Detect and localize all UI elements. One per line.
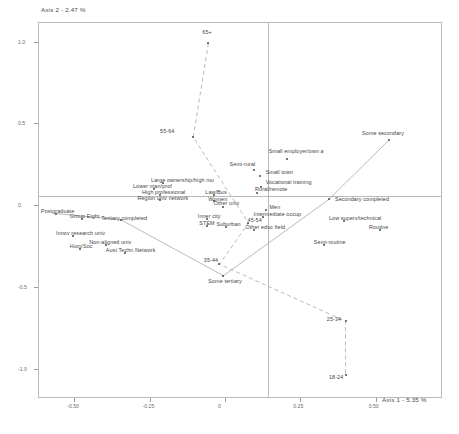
x-tick xyxy=(150,398,151,402)
data-point xyxy=(345,320,347,322)
y-tick xyxy=(34,287,38,288)
data-point xyxy=(345,374,347,376)
point-label: Secondary completed xyxy=(335,196,389,202)
point-label: Lower man/prof xyxy=(133,183,172,189)
point-label: Other univ xyxy=(213,200,239,206)
x-tick xyxy=(376,398,377,402)
x-tick xyxy=(225,398,226,402)
y-tick-label: 0 xyxy=(18,202,21,208)
point-label: Other educ field xyxy=(245,224,285,230)
y-tick xyxy=(34,369,38,370)
point-label: Rural/remote xyxy=(255,186,287,192)
y-tick xyxy=(34,205,38,206)
point-label: Some tertiary xyxy=(208,278,241,284)
point-label: 55-64 xyxy=(160,128,174,134)
point-label: Men xyxy=(270,204,281,210)
y-tick xyxy=(34,123,38,124)
point-label: 25-34 xyxy=(327,316,341,322)
y-tick-label: 0.5 xyxy=(18,120,25,126)
x-tick-label: 0 xyxy=(218,403,221,409)
point-label: Non-aligned univ xyxy=(89,239,131,245)
point-label: Semi-routine xyxy=(314,239,346,245)
data-point xyxy=(253,169,255,171)
point-label: STEM xyxy=(199,220,214,226)
point-label: Low superv/technical xyxy=(329,215,381,221)
point-label: Hum/Soc xyxy=(70,243,93,249)
point-label: Law/Bus xyxy=(205,189,226,195)
y-axis-label: Axis 2 - 2.47 % xyxy=(41,6,86,13)
plot-frame xyxy=(38,22,442,398)
x-tick xyxy=(74,398,75,402)
point-label: Small employer/own a xyxy=(269,148,324,154)
point-label: Tertiary completed xyxy=(101,215,147,221)
point-label: Group Eight xyxy=(70,213,100,219)
x-tick xyxy=(300,398,301,402)
point-label: Small town xyxy=(266,169,293,175)
point-label: 18-24 xyxy=(329,374,343,380)
y-tick xyxy=(34,42,38,43)
x-tick-label: -0.25 xyxy=(143,403,155,409)
point-label: Innov research univ xyxy=(56,230,105,236)
correspondence-analysis-plot: Axis 2 - 2.47 % Axis 1 - 5.35 % -0.50-0.… xyxy=(0,0,459,434)
point-label: 35-44 xyxy=(204,257,218,263)
y-tick-label: -1.0 xyxy=(18,366,27,372)
y-tick-label: 1.0 xyxy=(18,39,25,45)
x-tick-label: 0.25 xyxy=(293,403,303,409)
point-label: 65+ xyxy=(202,29,211,35)
x-tick-label: -0.50 xyxy=(67,403,79,409)
y-tick-label: -0.5 xyxy=(18,284,27,290)
point-label: Semi-rural xyxy=(229,161,255,167)
point-label: Vocational training xyxy=(266,179,312,185)
point-label: Large ownership/high mu xyxy=(151,177,214,183)
point-label: Routine xyxy=(369,224,388,230)
point-label: Region univ network xyxy=(137,195,188,201)
x-tick-label: 0.50 xyxy=(369,403,379,409)
x-axis-label: Axis 1 - 5.35 % xyxy=(382,396,427,403)
point-label: Some secondary xyxy=(362,130,404,136)
point-label: Aust Techn Network xyxy=(106,247,156,253)
point-label: Inner city xyxy=(198,213,221,219)
data-point xyxy=(286,158,288,160)
point-label: Suburban xyxy=(216,221,240,227)
point-label: 45-54 xyxy=(248,217,262,223)
